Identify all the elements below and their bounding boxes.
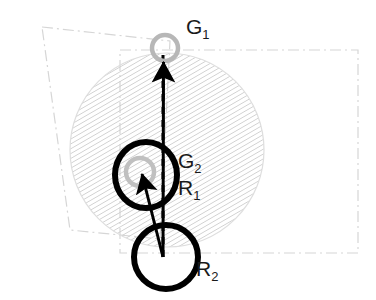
label-G2-sub: 2 (194, 161, 201, 176)
label-R2: R2 (196, 257, 218, 284)
label-R2-base: R (196, 257, 211, 280)
label-R1-sub: 1 (193, 188, 200, 203)
motion-arrow-R2-to-G1 (163, 62, 164, 257)
label-G1: G1 (186, 15, 210, 42)
label-G2-base: G (178, 149, 194, 172)
label-G1-sub: 1 (202, 27, 209, 42)
label-G1-base: G (186, 15, 202, 38)
label-R2-sub: 2 (211, 269, 218, 284)
diagram-canvas: G1 G2 R1 R2 (0, 0, 376, 300)
geometric-diagram-figure: G1 G2 R1 R2 (0, 0, 376, 300)
label-R1-base: R (178, 176, 193, 199)
